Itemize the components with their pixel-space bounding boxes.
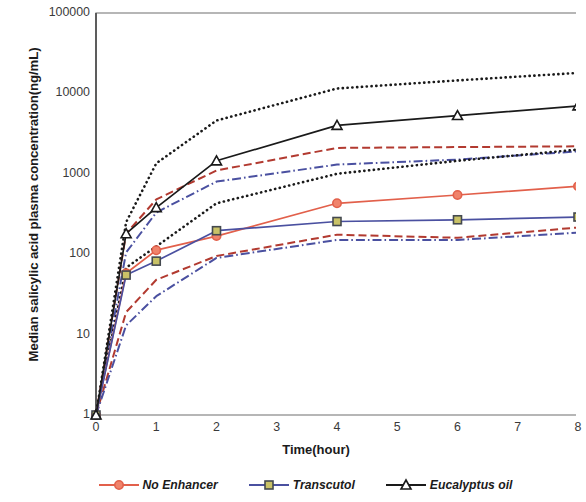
marker-circle <box>574 182 576 190</box>
legend-label: Eucalyptus oil <box>430 478 513 492</box>
legend-label: Transcutol <box>293 478 355 492</box>
x-tick-label: 6 <box>443 420 473 434</box>
marker-square <box>213 227 221 235</box>
series-line-eucalyptus-oil <box>96 106 576 415</box>
marker-circle <box>333 199 341 207</box>
y-tick-label: 1000 <box>16 167 90 179</box>
legend-label: No Enhancer <box>143 478 218 492</box>
x-tick-label: 2 <box>202 420 232 434</box>
y-tick-label: 100 <box>16 247 90 259</box>
series-line-no-enhancer-upper <box>96 146 576 415</box>
triangle-marker-icon <box>385 478 427 492</box>
marker-circle <box>152 246 160 254</box>
legend-item-eucalyptus-oil[interactable]: Eucalyptus oil <box>385 478 513 492</box>
marker-square <box>574 213 576 221</box>
y-tick-label: 10 <box>16 328 90 340</box>
x-axis-title: Time(hour) <box>0 442 576 457</box>
legend-item-no-enhancer[interactable]: No Enhancer <box>98 478 218 492</box>
x-axis-tick-labels: 012345678 <box>0 420 576 440</box>
x-tick-label: 1 <box>141 420 171 434</box>
chart-legend: No EnhancerTranscutolEucalyptus oil <box>0 474 576 496</box>
y-tick-label: 1 <box>16 408 90 420</box>
marker-square <box>333 218 341 226</box>
marker-square <box>152 257 160 265</box>
plot-frame-top-left <box>96 13 576 415</box>
x-tick-label: 0 <box>81 420 111 434</box>
x-tick-label: 8 <box>563 420 586 434</box>
square-marker-icon <box>248 478 290 492</box>
x-tick-label: 7 <box>503 420 533 434</box>
series-line-transcutol-lower <box>96 233 576 415</box>
marker-square <box>454 216 462 224</box>
x-tick-label: 4 <box>322 420 352 434</box>
circle-marker-icon <box>98 478 140 492</box>
marker-square <box>122 271 130 279</box>
series-line-eucalyptus-oil-lower <box>96 150 576 415</box>
marker-circle <box>453 191 461 199</box>
y-axis-tick-labels: 110100100010000100000 <box>12 0 90 440</box>
y-tick-label: 10000 <box>16 86 90 98</box>
legend-item-transcutol[interactable]: Transcutol <box>248 478 355 492</box>
x-tick-label: 5 <box>382 420 412 434</box>
y-tick-label: 100000 <box>16 6 90 18</box>
x-tick-label: 3 <box>262 420 292 434</box>
